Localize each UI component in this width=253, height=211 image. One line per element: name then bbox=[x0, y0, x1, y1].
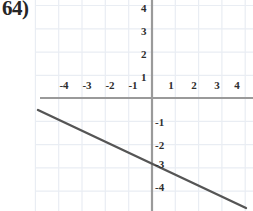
y-tick-label: -4 bbox=[155, 182, 171, 193]
x-tick-label: -2 bbox=[102, 80, 118, 91]
x-tick-label: -1 bbox=[125, 80, 141, 91]
y-tick-label: -1 bbox=[155, 117, 171, 128]
graph-screenshot: 64) bbox=[0, 0, 253, 211]
x-tick-label: 2 bbox=[186, 80, 202, 91]
y-tick-label: -2 bbox=[155, 140, 171, 151]
y-tick-label: 4 bbox=[141, 3, 157, 14]
graph-svg bbox=[0, 0, 253, 211]
x-tick-label: -4 bbox=[56, 80, 72, 91]
y-tick-label: 2 bbox=[141, 49, 157, 60]
x-tick-label: 4 bbox=[229, 80, 245, 91]
x-tick-label: 3 bbox=[209, 80, 225, 91]
y-tick-label: 1 bbox=[141, 72, 157, 83]
y-tick-label: -3 bbox=[155, 159, 171, 170]
coordinate-plane bbox=[0, 0, 253, 211]
x-tick-label: -3 bbox=[79, 80, 95, 91]
y-tick-label: 3 bbox=[141, 26, 157, 37]
x-tick-label: 1 bbox=[163, 80, 179, 91]
plotted-line bbox=[38, 110, 246, 208]
